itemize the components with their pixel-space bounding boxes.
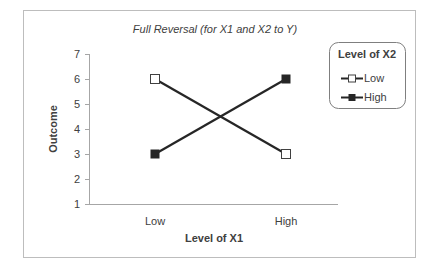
y-axis (85, 54, 90, 205)
y-tick-label: 1 (74, 198, 80, 210)
open-square-marker-icon (151, 75, 160, 84)
legend-label-low: Low (364, 72, 384, 84)
filled-square-marker-icon (282, 75, 291, 84)
y-tick-label: 3 (74, 148, 80, 160)
open-square-marker-icon (282, 150, 291, 159)
filled-square-marker-icon (349, 94, 356, 101)
x-tick-label-low: Low (145, 215, 165, 227)
y-axis-label: Outcome (47, 105, 59, 153)
chart-title: Full Reversal (for X1 and X2 to Y) (133, 23, 298, 35)
y-tick-label: 4 (74, 123, 80, 135)
open-square-marker-icon (349, 75, 356, 82)
x-tick-label-high: High (275, 215, 298, 227)
y-tick-labels: 1 2 3 4 5 6 7 (74, 48, 80, 210)
y-tick-label: 5 (74, 98, 80, 110)
y-tick-label: 7 (74, 48, 80, 60)
x-axis-label: Level of X1 (185, 232, 243, 244)
y-tick-label: 2 (74, 173, 80, 185)
legend: Level of X2 Low High (330, 43, 406, 109)
series-layer (151, 75, 291, 159)
y-tick-label: 6 (74, 73, 80, 85)
legend-label-high: High (364, 91, 387, 103)
legend-title: Level of X2 (338, 48, 396, 60)
interaction-line-chart: Full Reversal (for X1 and X2 to Y) 1 2 3… (0, 0, 441, 269)
filled-square-marker-icon (151, 150, 160, 159)
